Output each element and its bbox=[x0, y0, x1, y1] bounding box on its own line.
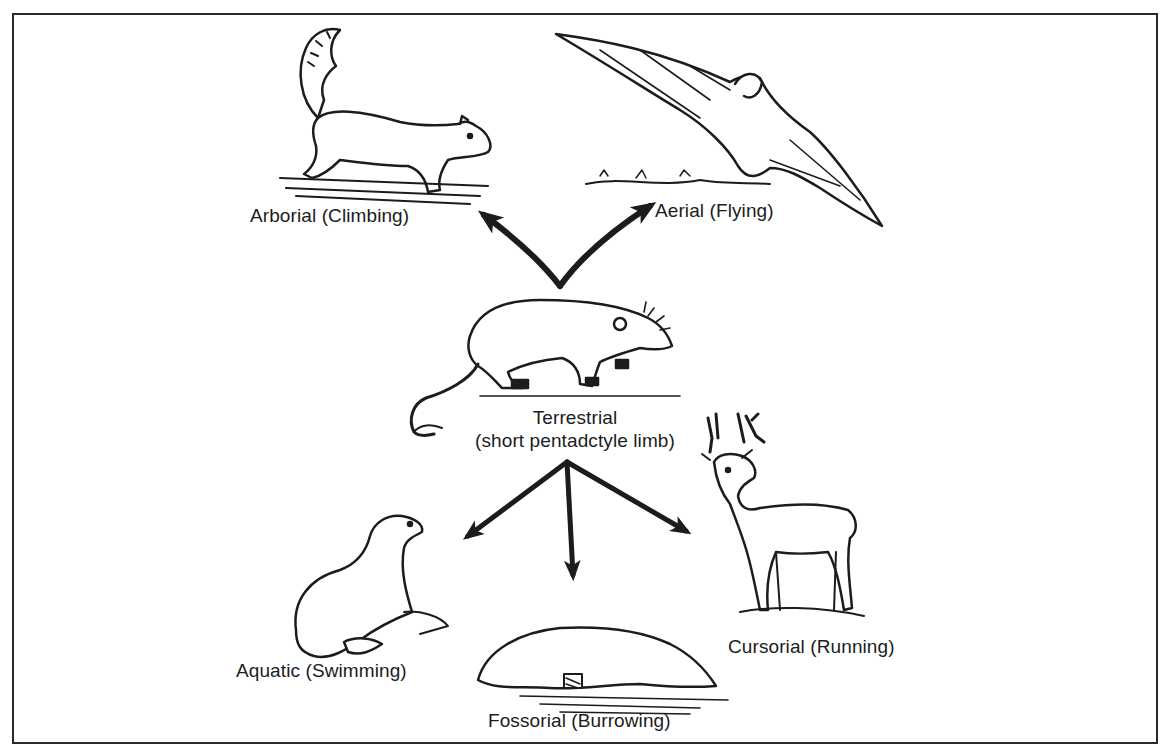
fossorial-label: Fossorial (Burrowing) bbox=[488, 710, 671, 732]
squirrel-illustration bbox=[280, 29, 490, 204]
cursorial-label: Cursorial (Running) bbox=[728, 636, 895, 658]
diagram-illustrations bbox=[0, 0, 1168, 756]
terrestrial-description: (short pentadctyle limb) bbox=[455, 429, 695, 452]
terrestrial-name: Terrestrial bbox=[455, 406, 695, 429]
seal-illustration bbox=[295, 516, 448, 657]
downward-arrows bbox=[468, 462, 686, 575]
aerial-label: Aerial (Flying) bbox=[655, 200, 774, 222]
aquatic-label: Aquatic (Swimming) bbox=[236, 660, 407, 682]
arborial-label: Arborial (Climbing) bbox=[250, 205, 409, 227]
mole-illustration bbox=[478, 628, 728, 714]
bat-illustration bbox=[556, 34, 882, 226]
terrestrial-label: Terrestrial (short pentadctyle limb) bbox=[455, 406, 695, 452]
upward-arrows bbox=[484, 206, 650, 286]
deer-illustration bbox=[702, 414, 864, 616]
